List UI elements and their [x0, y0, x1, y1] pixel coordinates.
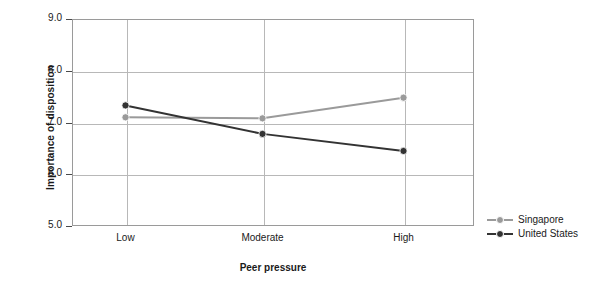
- plot-area: [72, 19, 474, 226]
- y-tick-label: 8.0: [28, 64, 62, 75]
- y-tick-label: 6.0: [28, 167, 62, 178]
- y-axis-title: Importance of disposition: [45, 18, 56, 238]
- y-tick-mark: [66, 226, 72, 227]
- y-tick-label: 9.0: [28, 12, 62, 23]
- gridline-vertical: [127, 20, 128, 225]
- legend: SingaporeUnited States: [487, 213, 595, 241]
- gridline-horizontal: [73, 72, 473, 73]
- legend-swatch-icon: [487, 214, 513, 225]
- gridline-vertical: [405, 20, 406, 225]
- legend-item-singapore[interactable]: Singapore: [487, 213, 595, 226]
- x-tick-label: High: [344, 232, 464, 243]
- legend-swatch-icon: [487, 228, 513, 239]
- y-tick-label: 7.0: [28, 116, 62, 127]
- gridline-horizontal: [73, 175, 473, 176]
- gridline-vertical: [264, 20, 265, 225]
- legend-label: Singapore: [518, 214, 564, 225]
- x-tick-label: Moderate: [203, 232, 323, 243]
- legend-label: United States: [518, 228, 578, 239]
- legend-item-united-states[interactable]: United States: [487, 227, 595, 240]
- line-chart: Importance of disposition 5.06.07.08.09.…: [0, 0, 598, 287]
- y-tick-label: 5.0: [28, 219, 62, 230]
- x-tick-label: Low: [66, 232, 186, 243]
- gridline-horizontal: [73, 124, 473, 125]
- x-axis-title: Peer pressure: [72, 262, 474, 273]
